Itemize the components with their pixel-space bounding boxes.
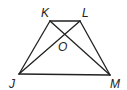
trapezoid-diagram: K L J M O — [0, 0, 127, 90]
vertex-label-K: K — [41, 6, 50, 20]
vertex-label-J: J — [8, 77, 16, 90]
segment-LM — [80, 21, 110, 75]
vertex-label-L: L — [82, 6, 89, 20]
segment-MJ — [19, 74, 110, 75]
vertex-label-M: M — [110, 77, 120, 90]
segment-JK — [19, 21, 50, 74]
intersection-label-O: O — [58, 40, 67, 54]
diagonal-LJ — [19, 21, 80, 74]
